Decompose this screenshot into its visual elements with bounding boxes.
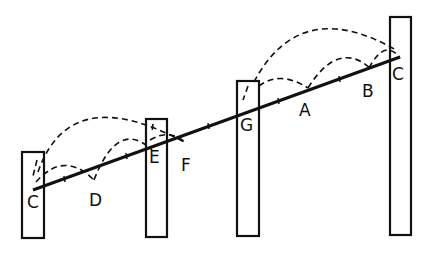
post-2 [146,119,167,237]
label-a: A [299,100,311,120]
leveling-diagram: C D E F G A B C [0,0,432,256]
post-3 [237,81,259,236]
label-f: F [181,155,191,175]
dashed-arcs [33,29,400,182]
label-b: B [362,81,374,101]
label-c-left: C [27,192,39,212]
label-e: E [149,147,160,167]
label-d: D [89,190,102,210]
diagram-canvas: C D E F G A B C [0,0,432,256]
label-c-right: C [392,64,404,84]
post-4 [390,17,411,235]
sight-line [33,57,400,190]
label-g: G [240,115,253,135]
